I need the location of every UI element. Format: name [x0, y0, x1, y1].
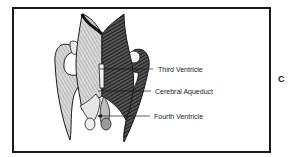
ventricular-system-illustration	[0, 0, 292, 157]
left-central-wing	[76, 14, 102, 110]
label-third-ventricle: Third Ventricle	[158, 66, 203, 73]
label-fourth-ventricle: Fourth Ventricle	[154, 113, 203, 120]
panel-letter: C	[278, 74, 285, 84]
label-cerebral-aqueduct: Cerebral Aqueduct	[155, 88, 213, 95]
arrowhead-icon	[97, 114, 102, 118]
